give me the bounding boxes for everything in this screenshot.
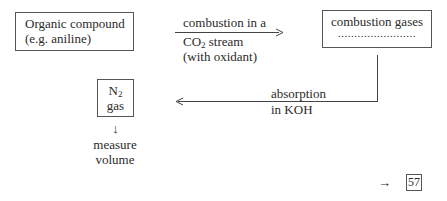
n2-gas-box: N2 gas xyxy=(97,79,134,117)
page-ref-arrow-icon: → xyxy=(378,175,391,190)
volume-label: volume xyxy=(85,152,145,167)
arrow-left-icon xyxy=(176,97,184,106)
absorption-label-2: in KOH xyxy=(271,102,313,117)
combustion-label-1: combustion in a xyxy=(183,15,266,30)
arrow-right-icon xyxy=(276,28,284,37)
co2-base: CO xyxy=(183,34,201,49)
n2-base: N xyxy=(109,83,118,98)
absorption-connector-vertical xyxy=(377,55,378,102)
combustion-label-3: (with oxidant) xyxy=(183,49,257,64)
n2-formula: N2 xyxy=(98,83,133,98)
absorption-label-1: absorption xyxy=(271,86,326,101)
combustion-label-2: CO2 stream xyxy=(183,34,243,49)
n2-gas-label: gas xyxy=(98,98,133,113)
stream-text: stream xyxy=(206,34,244,49)
organic-compound-example: (e.g. aniline) xyxy=(25,31,91,46)
organic-compound-box: Organic compound (e.g. aniline) xyxy=(15,12,134,51)
measure-label: measure xyxy=(85,137,145,152)
combustion-arrow-line xyxy=(175,32,279,33)
page-ref-box[interactable]: 57 xyxy=(406,174,422,191)
page-ref-number: 57 xyxy=(407,175,421,190)
organic-compound-label: Organic compound xyxy=(25,16,125,31)
combustion-gases-box: combustion gases .......................… xyxy=(322,10,432,48)
combustion-gases-blank: ........................ xyxy=(323,26,431,41)
arrow-down-icon: ↓ xyxy=(97,121,134,136)
